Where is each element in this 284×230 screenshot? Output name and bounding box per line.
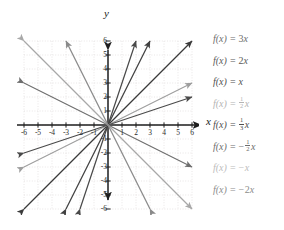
legend-variable: x [244,33,248,44]
legend-fraction: 12 [239,96,244,110]
legend-item-3: f(x)=12x [213,93,283,115]
legend: f(x)=3xf(x)=2xf(x)=xf(x)=12xf(x)=13xf(x)… [213,28,283,200]
legend-function-name: f(x) [213,184,227,195]
legend-fraction: 12 [245,139,250,153]
legend-variable: x [244,55,248,66]
coordinate-plane [17,33,199,215]
fraction-denominator: 3 [239,124,244,132]
y-tick-11: -6 [93,205,107,213]
fraction-denominator: 2 [239,102,244,110]
x-tick-8: 3 [143,129,157,137]
x-tick-9: 4 [157,129,171,137]
legend-equals-sign: = [227,119,239,130]
legend-function-name: f(x) [213,76,227,87]
legend-variable: x [251,141,255,152]
y-tick-6: -1 [93,135,107,143]
x-tick-2: -4 [45,129,59,137]
legend-equals-sign: = [227,184,239,195]
y-tick-4: 2 [93,93,107,101]
legend-variable: x [239,76,243,87]
x-tick-4: -2 [73,129,87,137]
legend-equals-sign: = [227,33,239,44]
legend-minus-sign: − [239,184,245,195]
legend-minus-sign: − [239,162,245,173]
y-tick-5: 1 [93,107,107,115]
legend-function-name: f(x) [213,98,227,109]
y-tick-2: 4 [93,65,107,73]
y-tick-1: 5 [93,51,107,59]
y-tick-7: -2 [93,149,107,157]
legend-function-name: f(x) [213,162,227,173]
x-tick-6: 1 [115,129,129,137]
legend-variable: x [245,98,249,109]
legend-function-name: f(x) [213,141,227,152]
legend-function-name: f(x) [213,33,227,44]
legend-variable: x [250,184,254,195]
legend-item-1: f(x)=2x [213,50,283,72]
y-tick-0: 6 [93,37,107,45]
legend-item-6: f(x)=−x [213,157,283,179]
legend-function-name: f(x) [213,55,227,66]
y-axis-label: y [104,8,109,19]
fraction-denominator: 2 [245,145,250,153]
legend-variable: x [245,162,249,173]
legend-equals-sign: = [227,162,239,173]
x-tick-11: 6 [185,129,199,137]
legend-function-name: f(x) [213,119,227,130]
legend-item-2: f(x)=x [213,71,283,93]
y-tick-3: 3 [93,79,107,87]
x-tick-0: -6 [17,129,31,137]
y-tick-10: -5 [93,191,107,199]
x-tick-3: -3 [59,129,73,137]
legend-item-0: f(x)=3x [213,28,283,50]
y-tick-9: -4 [93,177,107,185]
y-tick-8: -3 [93,163,107,171]
x-tick-1: -5 [31,129,45,137]
graph-figure: -6-5-4-3-2-1123456 654321-1-2-3-4-5-6 y … [0,0,284,230]
legend-fraction: 13 [239,117,244,131]
legend-equals-sign: = [227,55,239,66]
x-axis-label: x [206,116,211,127]
legend-equals-sign: = [227,141,239,152]
legend-variable: x [245,119,249,130]
legend-equals-sign: = [227,98,239,109]
x-tick-7: 2 [129,129,143,137]
legend-item-4: f(x)=13x [213,114,283,136]
legend-item-7: f(x)=−2x [213,179,283,201]
plot-svg [17,33,199,215]
x-tick-10: 5 [171,129,185,137]
legend-item-5: f(x)=−12x [213,136,283,158]
legend-equals-sign: = [227,76,239,87]
legend-minus-sign: − [239,141,245,152]
